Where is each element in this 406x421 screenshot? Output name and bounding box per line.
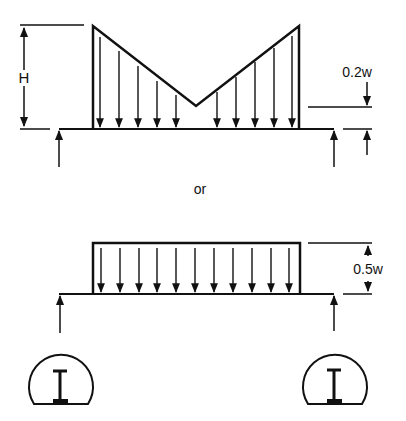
uniform-height-label: 0.5w	[353, 261, 383, 277]
v-load-outline	[93, 26, 299, 129]
offset-label: 0.2w	[342, 64, 372, 80]
offset-dimension: 0.2w	[308, 64, 373, 155]
separator-or: or	[194, 181, 207, 197]
left-support-icon	[29, 355, 93, 404]
load-diagram: H 0.2w or	[0, 0, 406, 421]
bottom-load-arrows	[101, 248, 289, 292]
top-load-diagram: H 0.2w	[19, 25, 373, 167]
height-dimension: H	[19, 25, 84, 129]
uniform-load-outline	[93, 243, 300, 294]
top-load-arrows	[100, 36, 292, 127]
bottom-load-diagram: 0.5w	[59, 243, 384, 333]
right-support-icon	[303, 355, 367, 404]
uniform-height-dimension: 0.5w	[308, 243, 384, 294]
height-label: H	[19, 69, 30, 86]
